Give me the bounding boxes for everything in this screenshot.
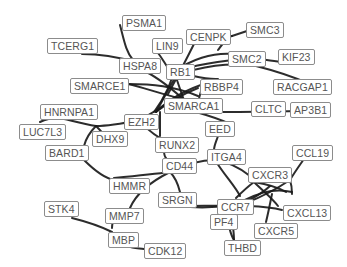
edge — [236, 182, 254, 198]
node-ccr7[interactable]: CCR7 — [217, 199, 254, 215]
network-diagram: PSMA1TCERG1LIN9CENPKSMC3HSPA8SMC2KIF23RB… — [0, 0, 347, 267]
node-mmp7[interactable]: MMP7 — [105, 208, 144, 224]
node-eed[interactable]: EED — [205, 121, 235, 137]
node-rb1[interactable]: RB1 — [166, 64, 195, 80]
node-cxcr5[interactable]: CXCR5 — [254, 223, 298, 239]
node-psma1[interactable]: PSMA1 — [122, 15, 166, 31]
edge — [214, 136, 218, 150]
node-luc7l3[interactable]: LUC7L3 — [19, 124, 66, 140]
node-bard1[interactable]: BARD1 — [45, 145, 89, 161]
node-runx2[interactable]: RUNX2 — [155, 137, 199, 153]
node-smc3[interactable]: SMC3 — [246, 22, 284, 38]
node-thbd[interactable]: THBD — [224, 240, 261, 256]
edge — [170, 172, 180, 192]
node-cxcr3[interactable]: CXCR3 — [248, 167, 292, 183]
node-cdk12[interactable]: CDK12 — [144, 243, 186, 259]
node-tcerg1[interactable]: TCERG1 — [47, 38, 98, 54]
node-hnrnpa1[interactable]: HNRNPA1 — [40, 104, 98, 120]
node-ccl19[interactable]: CCL19 — [292, 145, 333, 161]
node-cenpk[interactable]: CENPK — [186, 29, 231, 45]
node-itga4[interactable]: ITGA4 — [207, 149, 246, 165]
edge — [215, 160, 240, 196]
node-smarca1[interactable]: SMARCA1 — [164, 98, 223, 114]
node-pf4[interactable]: PF4 — [210, 214, 238, 230]
node-racgap1[interactable]: RACGAP1 — [273, 79, 332, 95]
node-cxcl13[interactable]: CXCL13 — [283, 205, 331, 221]
node-kif23[interactable]: KIF23 — [278, 49, 315, 65]
node-srgn[interactable]: SRGN — [158, 192, 197, 208]
node-stk4[interactable]: STK4 — [44, 201, 79, 217]
node-rbbp4[interactable]: RBBP4 — [200, 79, 243, 95]
edge — [84, 160, 114, 180]
node-mbp[interactable]: MBP — [108, 232, 139, 248]
node-cltc[interactable]: CLTC — [251, 101, 286, 117]
node-ezh2[interactable]: EZH2 — [124, 114, 159, 130]
node-hspa8[interactable]: HSPA8 — [119, 58, 161, 74]
node-dhx9[interactable]: DHX9 — [92, 131, 128, 147]
node-smc2[interactable]: SMC2 — [228, 51, 266, 67]
node-cd44[interactable]: CD44 — [162, 158, 197, 174]
node-hmmr[interactable]: HMMR — [109, 178, 150, 194]
node-ap3b1[interactable]: AP3B1 — [290, 102, 331, 118]
node-smarce1[interactable]: SMARCE1 — [70, 78, 129, 94]
node-lin9[interactable]: LIN9 — [152, 38, 183, 54]
